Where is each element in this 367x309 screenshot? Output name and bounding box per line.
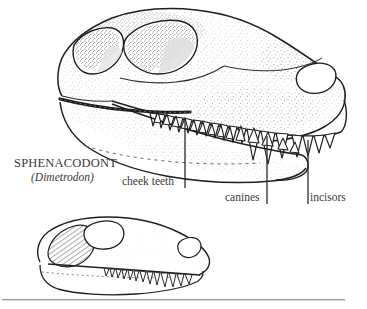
comparison-orbit bbox=[84, 221, 124, 249]
label-taxon-genus: (Dimetrodon) bbox=[31, 172, 94, 184]
comparison-external-naris bbox=[178, 238, 201, 258]
external-naris bbox=[296, 63, 336, 93]
label-incisors: incisors bbox=[310, 192, 346, 204]
footer-rule bbox=[2, 299, 345, 300]
footer-rule-shadow bbox=[3, 300, 346, 301]
label-cheek-teeth: cheek teeth bbox=[122, 176, 174, 188]
label-canines: canines bbox=[225, 192, 259, 204]
label-taxon-common: SPHENACODONT bbox=[14, 157, 117, 170]
skull-illustration-figure bbox=[0, 0, 367, 309]
